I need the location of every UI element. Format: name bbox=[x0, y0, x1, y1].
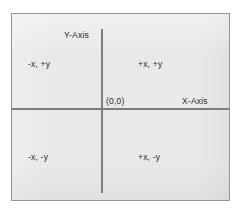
quadrant-1-label: +x, +y bbox=[138, 59, 162, 69]
quadrant-4-label: +x, -y bbox=[138, 152, 160, 162]
x-axis-label: X-Axis bbox=[182, 96, 208, 106]
x-axis-line bbox=[12, 108, 229, 110]
origin-label: (0,0) bbox=[106, 96, 124, 106]
plot-area: Y-Axis X-Axis (0,0) -x, +y +x, +y -x, -y… bbox=[11, 13, 230, 201]
quadrant-2-label: -x, +y bbox=[28, 59, 50, 69]
y-axis-line bbox=[101, 29, 103, 193]
coordinate-plane-diagram: Y-Axis X-Axis (0,0) -x, +y +x, +y -x, -y… bbox=[0, 0, 243, 215]
quadrant-3-label: -x, -y bbox=[28, 152, 48, 162]
plot-background-texture bbox=[12, 14, 229, 200]
y-axis-label: Y-Axis bbox=[64, 30, 89, 40]
